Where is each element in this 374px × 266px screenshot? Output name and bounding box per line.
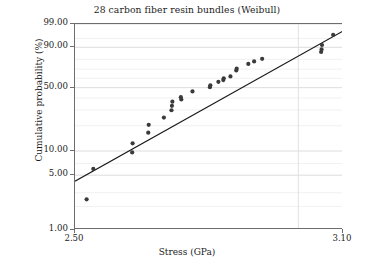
data-point	[169, 108, 173, 112]
x-axis-tick-mark	[342, 229, 343, 233]
plot-frame	[74, 23, 342, 229]
weibull-fit-line	[75, 31, 342, 181]
y-axis-tick-label: 10.00	[8, 144, 68, 154]
data-point	[260, 57, 264, 61]
chart-title: 28 carbon fiber resin bundles (Weibull)	[0, 4, 374, 15]
data-point	[130, 150, 134, 154]
data-point	[162, 115, 166, 119]
scatter-plot-canvas	[75, 24, 342, 228]
data-point	[252, 59, 256, 63]
data-point	[147, 123, 151, 127]
plot-area	[75, 24, 342, 228]
data-point	[146, 131, 150, 135]
data-point	[131, 141, 135, 145]
x-axis-tick-label: 3.10	[322, 233, 362, 243]
y-axis-tick-label: 50.00	[8, 81, 68, 91]
data-point	[228, 74, 232, 78]
data-point	[179, 97, 183, 101]
y-axis-tick-label: 1.00	[8, 223, 68, 233]
data-point	[190, 89, 194, 93]
data-point	[85, 197, 89, 201]
y-axis-tick-label: 90.00	[8, 40, 68, 50]
x-axis-title: Stress (GPa)	[0, 247, 374, 257]
y-axis-tick-label: 5.00	[8, 168, 68, 178]
x-axis-tick-label: 2.50	[54, 233, 94, 243]
y-axis-tick-label: 99.00	[8, 17, 68, 27]
data-point	[208, 83, 212, 87]
data-point	[320, 43, 324, 47]
data-point	[319, 47, 323, 51]
data-point	[331, 33, 335, 37]
data-point	[170, 100, 174, 104]
x-axis-tick-mark	[74, 229, 75, 233]
data-point	[216, 80, 220, 84]
data-point	[91, 167, 95, 171]
data-point	[246, 62, 250, 66]
data-point	[170, 104, 174, 108]
chart-root: 28 carbon fiber resin bundles (Weibull) …	[0, 0, 374, 266]
data-point	[235, 67, 239, 71]
data-point	[222, 76, 226, 80]
